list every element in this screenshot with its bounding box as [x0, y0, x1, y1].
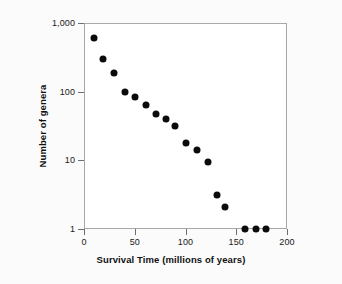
data-point: [242, 226, 249, 233]
y-tick-label: 1,000: [0, 18, 75, 28]
chart-figure: 1,000100101 050100150200 Number of gener…: [0, 0, 342, 284]
x-tick-label: 150: [229, 237, 244, 247]
y-tick-label: 1: [0, 224, 75, 234]
x-tick-label: 50: [130, 237, 140, 247]
x-tick-mark: [236, 229, 237, 235]
data-point: [172, 122, 179, 129]
data-point: [182, 139, 189, 146]
data-point: [91, 35, 98, 42]
data-point: [142, 102, 149, 109]
x-tick-label: 100: [178, 237, 193, 247]
data-point: [131, 93, 138, 100]
x-axis-title: Survival Time (millions of years): [0, 254, 342, 265]
data-point: [163, 115, 170, 122]
data-point: [262, 226, 269, 233]
x-tick-mark: [186, 229, 187, 235]
x-tick-mark: [135, 229, 136, 235]
x-tick-mark: [84, 229, 85, 235]
data-point: [153, 110, 160, 117]
data-point: [252, 226, 259, 233]
data-point: [121, 88, 128, 95]
data-point: [222, 203, 229, 210]
x-tick-label: 200: [279, 237, 294, 247]
data-point: [204, 159, 211, 166]
x-tick-label: 0: [81, 237, 86, 247]
data-point: [193, 147, 200, 154]
x-tick-mark: [287, 229, 288, 235]
data-point: [213, 192, 220, 199]
scatter-plot-area: [84, 23, 287, 229]
y-axis-title: Number of genera: [37, 85, 48, 168]
data-point: [100, 55, 107, 62]
data-point: [111, 69, 118, 76]
